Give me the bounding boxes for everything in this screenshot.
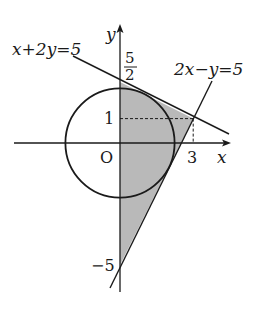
tick-label-5-over-2-numerator: 5: [125, 49, 135, 67]
tick-label-y-1: 1: [104, 109, 114, 128]
coordinate-diagram: x+2y=5 2x−y=5 y x O 5 2 1 3 −5: [0, 0, 266, 333]
shaded-region: [120, 82, 193, 265]
tick-label-5-over-2-denominator: 2: [125, 66, 135, 84]
label-line-2x-minus-y: 2x−y=5: [173, 59, 243, 79]
x-axis-label: x: [217, 147, 227, 167]
y-axis-label: y: [105, 24, 116, 44]
tick-label-y-neg-5: −5: [91, 256, 115, 275]
origin-label: O: [100, 148, 113, 167]
label-line-x-plus-2y: x+2y=5: [12, 39, 81, 59]
tick-label-x-3: 3: [187, 148, 197, 167]
